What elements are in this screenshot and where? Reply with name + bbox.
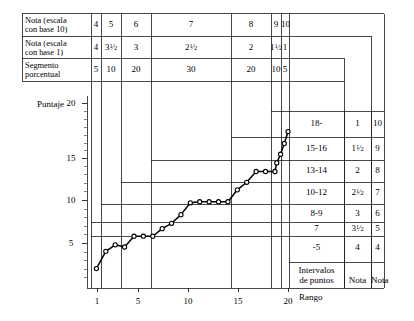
y-tick-5: 5 xyxy=(63,238,79,248)
x-axis-title: Rango xyxy=(299,292,323,302)
interval-cell-6: -5 xyxy=(289,242,344,252)
data-point xyxy=(179,213,183,217)
rt-nota10-cell-5: 5 xyxy=(371,223,384,233)
data-point xyxy=(254,169,258,173)
data-point xyxy=(207,200,211,204)
data-point xyxy=(275,161,279,165)
x-tick-20: 20 xyxy=(280,296,296,306)
nota1-cell-6: 1 xyxy=(281,42,289,52)
rt-nota10-cell-0: 10 xyxy=(371,118,384,128)
top-row-0-label-line2: con base 10) xyxy=(25,25,89,34)
interval-cell-2: 13-14 xyxy=(289,165,344,175)
rt-nota10-cell-6: 4 xyxy=(371,242,384,252)
data-point xyxy=(169,221,173,225)
data-point xyxy=(160,227,164,231)
interval-cell-0: 18- xyxy=(289,118,344,128)
data-point xyxy=(235,188,239,192)
rt-footer-nota1: Nota xyxy=(344,275,371,285)
segmento-cell-2: 20 xyxy=(121,64,151,74)
data-point xyxy=(141,234,145,238)
rt-nota1-cell-0: 1 xyxy=(344,118,371,128)
nota1-cell-1: 31⁄2 xyxy=(101,42,121,53)
data-point xyxy=(245,180,249,184)
rt-nota1-cell-4: 3 xyxy=(344,208,371,218)
top-row-1-label-line1: Nota (escala xyxy=(25,39,89,48)
data-point xyxy=(263,169,267,173)
data-point xyxy=(278,152,282,156)
data-point xyxy=(104,249,108,253)
rt-footer-interval-line1: Intervalos xyxy=(289,265,344,275)
segmento-cell-4: 20 xyxy=(231,64,271,74)
data-point xyxy=(113,243,117,247)
rt-nota10-cell-4: 6 xyxy=(371,208,384,218)
x-tick-10: 10 xyxy=(180,296,196,306)
x-tick-15: 15 xyxy=(230,296,246,306)
data-point xyxy=(188,201,192,205)
rt-nota1-cell-3: 21⁄2 xyxy=(344,187,371,198)
nota10-cell-5: 9 xyxy=(271,19,281,29)
segmento-cell-6: 5 xyxy=(281,64,289,74)
rt-nota1-cell-2: 2 xyxy=(344,165,371,175)
nota10-cell-6: 10 xyxy=(281,19,289,29)
rt-nota10-cell-3: 7 xyxy=(371,187,384,197)
rt-nota10-cell-1: 9 xyxy=(371,143,384,153)
data-point xyxy=(282,141,286,145)
rt-nota10-cell-2: 8 xyxy=(371,165,384,175)
data-curve xyxy=(94,130,290,271)
nota1-cell-3: 21⁄2 xyxy=(151,42,231,53)
top-row-2-label-line2: porcentual xyxy=(25,70,89,79)
y-tick-20: 20 xyxy=(63,98,79,108)
data-point xyxy=(226,200,230,204)
data-point xyxy=(151,234,155,238)
segmento-cell-1: 10 xyxy=(101,64,121,74)
top-row-1-label-line2: con base 1) xyxy=(25,48,89,57)
data-point xyxy=(198,200,202,204)
nota10-cell-3: 7 xyxy=(151,19,231,29)
data-point xyxy=(286,130,290,134)
data-point xyxy=(273,169,277,173)
nota1-cell-0: 4 xyxy=(91,42,101,52)
nota10-cell-4: 8 xyxy=(231,19,271,29)
data-point xyxy=(122,245,126,249)
nota10-cell-1: 5 xyxy=(101,19,121,29)
y-major-ticks xyxy=(82,103,87,243)
segmento-cell-3: 30 xyxy=(151,64,231,74)
interval-cell-4: 8-9 xyxy=(289,208,344,218)
rt-nota1-cell-5: 31⁄2 xyxy=(344,223,371,234)
figure-root: Nota (escala con base 10) Nota (escala c… xyxy=(0,0,414,321)
nota1-cell-2: 3 xyxy=(121,42,151,52)
rt-footer-interval-line2: de puntos xyxy=(289,275,344,285)
nota10-cell-0: 4 xyxy=(91,19,101,29)
y-minor-ticks xyxy=(84,111,87,277)
y-tick-15: 15 xyxy=(63,153,79,163)
x-tick-1: 1 xyxy=(89,296,105,306)
top-row-0-label-line1: Nota (escala xyxy=(25,16,89,25)
top-row-2-label-line1: Segmento xyxy=(25,61,89,70)
x-tick-5: 5 xyxy=(130,296,146,306)
interval-cell-5: 7 xyxy=(289,223,344,233)
y-axis-title: Puntaje xyxy=(37,99,64,109)
rt-footer-nota10: Nota xyxy=(371,275,384,285)
data-point xyxy=(132,234,136,238)
y-tick-10: 10 xyxy=(63,195,79,205)
rt-nota1-cell-6: 4 xyxy=(344,242,371,252)
x-ticks xyxy=(97,288,288,292)
interval-cell-1: 15-16 xyxy=(289,143,344,153)
segmento-cell-5: 10 xyxy=(271,64,281,74)
interval-cell-3: 10-12 xyxy=(289,187,344,197)
nota10-cell-2: 6 xyxy=(121,19,151,29)
segmento-cell-0: 5 xyxy=(91,64,101,74)
data-point xyxy=(94,266,98,270)
data-point xyxy=(216,200,220,204)
nota1-cell-4: 2 xyxy=(231,42,271,52)
rt-nota1-cell-1: 11⁄2 xyxy=(344,143,371,154)
